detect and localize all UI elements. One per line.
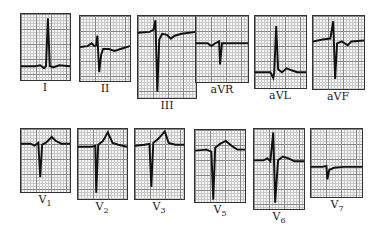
lead-I-panel (20, 13, 71, 81)
lead-aVL-label: aVL (250, 89, 310, 102)
lead-aVF-trace (313, 16, 364, 89)
lead-V3-trace (135, 129, 184, 199)
lead-V2-label: V2 (72, 200, 132, 215)
lead-V1-trace (21, 129, 70, 192)
lead-V6-label: V6 (249, 210, 309, 225)
lead-aVL-panel (254, 15, 307, 89)
lead-V7-panel (310, 128, 363, 198)
lead-aVR-label: aVR (192, 83, 252, 96)
lead-III-panel (137, 15, 197, 99)
lead-V5-panel (194, 129, 246, 203)
lead-aVL-trace (255, 16, 306, 88)
lead-II-trace (80, 16, 130, 81)
lead-V6-panel (253, 128, 305, 210)
lead-III-label: III (137, 99, 197, 112)
lead-aVR-trace (196, 16, 248, 82)
lead-III-trace (138, 16, 196, 98)
lead-II-panel (79, 15, 131, 82)
lead-V5-label: V5 (190, 203, 250, 218)
lead-aVR-panel (195, 15, 249, 83)
lead-V5-trace (195, 130, 245, 202)
lead-V2-panel (77, 128, 128, 200)
lead-V7-trace (311, 129, 362, 197)
lead-V3-label: V3 (129, 200, 189, 215)
lead-I-trace (21, 14, 70, 80)
lead-V7-label: V7 (307, 198, 367, 213)
lead-aVF-panel (312, 15, 365, 90)
lead-II-label: II (75, 82, 135, 95)
lead-aVF-label: aVF (308, 90, 368, 103)
lead-I-label: I (15, 81, 75, 94)
lead-V2-trace (78, 129, 127, 199)
lead-V6-trace (254, 129, 304, 209)
lead-V1-label: V1 (15, 193, 75, 208)
lead-V3-panel (134, 128, 185, 200)
lead-V1-panel (20, 128, 71, 193)
